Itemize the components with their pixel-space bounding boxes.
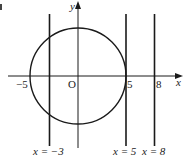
cropped-label-fragment [0, 4, 2, 10]
y-axis-arrow-icon [75, 1, 81, 9]
label-x-neg3: x = −3 [32, 145, 64, 157]
coordinate-diagram: y x O −5 5 8 x = −3 x = 5 x = 8 [0, 0, 186, 157]
tick-label-5: 5 [127, 78, 133, 90]
tick-label-neg5: −5 [16, 78, 28, 90]
label-x-5: x = 5 [112, 145, 137, 157]
y-axis-label: y [69, 0, 75, 12]
origin-label: O [68, 78, 76, 90]
label-x-8: x = 8 [141, 145, 166, 157]
x-axis-label: x [175, 76, 181, 88]
tick-label-8: 8 [156, 78, 162, 90]
